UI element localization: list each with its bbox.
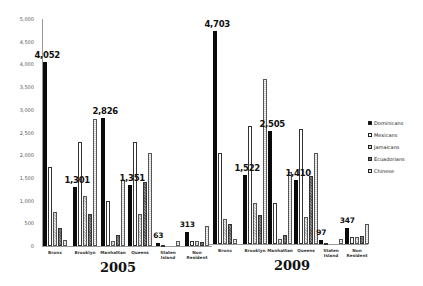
bar-jamaicans-non-resident [195, 241, 199, 246]
legend-label: Jamaicans [374, 144, 399, 150]
y-tick-label: 4,000 [0, 61, 34, 67]
bar-mexicans-brooklyn [78, 142, 82, 246]
bar-jamaicans-queens [138, 214, 142, 246]
bar-chinese-non-resident [205, 226, 209, 246]
bar-dominicans-queens [294, 180, 298, 244]
y-tick-label: 0 [0, 243, 34, 249]
bar-dominicans-manhattan [101, 118, 105, 246]
bar-mexicans-bronx [48, 167, 52, 246]
data-label-dominicans: 1,301 [64, 175, 89, 185]
bar-mexicans-manhattan [273, 203, 277, 244]
bar-dominicans-queens [128, 185, 132, 246]
bar-chinese-manhattan [121, 180, 125, 246]
y-tick-label: 3,000 [0, 107, 34, 113]
bar-dominicans-brooklyn [243, 175, 247, 244]
bar-chinese-brooklyn [93, 119, 97, 246]
category-label: Manhattan [100, 250, 126, 255]
bar-chinese-manhattan [288, 172, 292, 244]
bar-jamaicans-manhattan [278, 239, 282, 244]
legend-label: Dominicans [374, 120, 403, 126]
legend-swatch-ecuadorians [368, 157, 372, 161]
bar-ecuadorians-manhattan [116, 235, 120, 246]
legend: Dominicans Mexicans Jamaicans Ecuadorian… [368, 117, 405, 177]
bar-mexicans-brooklyn [248, 126, 252, 244]
y-tick-label: 2,500 [0, 130, 34, 136]
bar-dominicans-manhattan [268, 131, 272, 244]
data-label-dominicans: 4,052 [34, 50, 59, 60]
bar-mexicans-staten-island [324, 243, 328, 245]
bar-dominicans-staten-island [319, 240, 323, 244]
bar-dominicans-bronx [43, 62, 47, 246]
bar-mexicans-non-resident [350, 237, 354, 244]
legend-item-ecuadorians: Ecuadorians [368, 153, 405, 165]
bar-ecuadorians-brooklyn [88, 214, 92, 246]
bar-ecuadorians-non-resident [360, 236, 364, 244]
legend-label: Ecuadorians [374, 156, 405, 162]
bar-dominicans-staten-island [156, 243, 160, 246]
y-tick-label: 3,500 [0, 84, 34, 90]
data-label-dominicans: 347 [340, 216, 355, 225]
bar-dominicans-bronx [213, 31, 217, 244]
category-label: StatenIsland [155, 250, 181, 260]
category-label: Bronx [42, 250, 68, 255]
category-label: Brooklyn [72, 250, 98, 255]
category-label: Brooklyn [242, 248, 268, 253]
bar-jamaicans-brooklyn [253, 203, 257, 244]
year-label-2009: 2009 [274, 258, 310, 273]
category-label: Manhattan [267, 248, 293, 253]
bar-mexicans-bronx [218, 153, 222, 244]
legend-swatch-jamaicans [368, 145, 372, 149]
bar-chinese-staten-island [339, 239, 343, 244]
data-label-dominicans: 63 [153, 231, 163, 240]
data-label-dominicans: 1,410 [285, 168, 310, 178]
bar-jamaicans-brooklyn [83, 196, 87, 246]
data-label-dominicans: 1,522 [234, 163, 259, 173]
legend-item-mexicans: Mexicans [368, 129, 405, 141]
y-tick-label: 5,000 [0, 16, 34, 22]
data-label-dominicans: 4,703 [204, 19, 229, 29]
bar-chinese-staten-island [176, 241, 180, 246]
legend-label: Chinese [374, 168, 394, 174]
bar-jamaicans-queens [304, 217, 308, 244]
chart-root: 05001,0001,5002,0002,5003,0003,5004,0004… [0, 0, 423, 286]
category-label: NonResident [344, 248, 370, 258]
bar-ecuadorians-manhattan [283, 235, 287, 244]
bar-jamaicans-bronx [223, 219, 227, 244]
data-label-dominicans: 313 [180, 220, 195, 229]
bar-mexicans-queens [133, 142, 137, 246]
legend-swatch-chinese [368, 169, 372, 173]
bar-ecuadorians-non-resident [200, 242, 204, 246]
legend-swatch-dominicans [368, 121, 372, 125]
legend-item-chinese: Chinese [368, 165, 405, 177]
bar-ecuadorians-bronx [58, 228, 62, 246]
x-axis-2005 [42, 246, 212, 247]
category-label: Queens [127, 250, 153, 255]
bar-ecuadorians-queens [309, 176, 313, 244]
bar-chinese-non-resident [365, 224, 369, 244]
bar-jamaicans-bronx [53, 212, 57, 246]
bar-mexicans-manhattan [106, 201, 110, 246]
y-tick-label: 4,500 [0, 39, 34, 45]
category-label: NonResident [184, 250, 210, 260]
bar-chinese-bronx [233, 239, 237, 244]
legend-label: Mexicans [374, 132, 397, 138]
bar-mexicans-queens [299, 129, 303, 244]
bar-jamaicans-manhattan [111, 241, 115, 246]
legend-item-dominicans: Dominicans [368, 117, 405, 129]
bar-ecuadorians-brooklyn [258, 215, 262, 244]
data-label-dominicans: 2,505 [259, 119, 284, 129]
bar-ecuadorians-queens [143, 182, 147, 246]
y-tick-label: 1,500 [0, 175, 34, 181]
bar-ecuadorians-bronx [228, 224, 232, 244]
bar-jamaicans-non-resident [355, 237, 359, 244]
y-tick-label: 500 [0, 220, 34, 226]
bar-mexicans-non-resident [190, 241, 194, 246]
y-tick-label: 2,000 [0, 152, 34, 158]
bar-dominicans-brooklyn [73, 187, 77, 246]
x-axis-2009 [208, 244, 368, 245]
year-label-2005: 2005 [100, 260, 136, 275]
bar-chinese-bronx [63, 240, 67, 246]
legend-swatch-mexicans [368, 133, 372, 137]
category-label: Bronx [212, 248, 238, 253]
category-label: StatenIsland [318, 248, 344, 258]
